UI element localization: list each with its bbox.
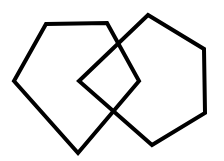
right-pentagon <box>79 15 205 145</box>
overlapping-pentagons-diagram <box>0 0 224 161</box>
